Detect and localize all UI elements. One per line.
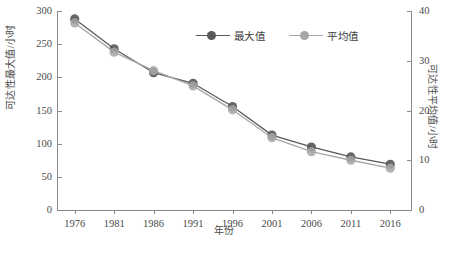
left-tick-label: 250 — [36, 39, 52, 50]
x-tick-mark — [114, 210, 115, 214]
legend-marker-icon — [196, 30, 230, 42]
x-tick-mark — [154, 210, 155, 214]
x-tick-label: 1996 — [213, 218, 253, 229]
x-tick-label: 2001 — [252, 218, 292, 229]
chart-legend: 最大值 平均值 — [196, 28, 358, 43]
x-tick-label: 1991 — [173, 218, 213, 229]
legend-marker-icon — [289, 30, 323, 42]
x-tick-label: 1986 — [134, 218, 174, 229]
right-tick-label: 30 — [419, 56, 430, 67]
x-tick-mark — [390, 210, 391, 214]
left-tick-mark — [58, 210, 62, 211]
left-tick-label: 200 — [36, 72, 52, 83]
data-point-marker — [307, 147, 316, 156]
right-tick-mark — [407, 210, 411, 211]
x-tick-label: 1976 — [55, 218, 95, 229]
x-axis-line — [57, 210, 412, 211]
right-tick-label: 20 — [419, 106, 430, 117]
x-tick-label: 2016 — [370, 218, 410, 229]
x-tick-label: 2011 — [331, 218, 371, 229]
left-tick-label: 50 — [42, 172, 53, 183]
data-point-marker — [386, 164, 395, 173]
x-tick-mark — [311, 210, 312, 214]
x-tick-mark — [272, 210, 273, 214]
x-tick-mark — [233, 210, 234, 214]
x-tick-mark — [351, 210, 352, 214]
x-tick-mark — [193, 210, 194, 214]
x-tick-label: 2006 — [291, 218, 331, 229]
left-axis-title: 可达性最大值/小时 — [2, 25, 17, 110]
data-point-marker — [346, 156, 355, 165]
legend-label-max: 最大值 — [234, 28, 265, 43]
right-tick-label: 10 — [419, 155, 430, 166]
left-tick-label: 300 — [36, 6, 52, 17]
data-point-marker — [188, 81, 197, 90]
series-line — [75, 23, 391, 168]
x-tick-mark — [75, 210, 76, 214]
data-point-marker — [228, 105, 237, 114]
chart-figure: 可达性最大值/小时 可达性平均值/小时 年份 05010015020025030… — [0, 0, 449, 257]
legend-item-avg: 平均值 — [289, 28, 358, 43]
legend-item-max: 最大值 — [196, 28, 265, 43]
right-tick-label: 40 — [419, 6, 430, 17]
right-tick-label: 0 — [419, 205, 424, 216]
left-tick-label: 100 — [36, 139, 52, 150]
data-point-marker — [149, 66, 158, 75]
data-point-marker — [267, 133, 276, 142]
x-tick-label: 1981 — [94, 218, 134, 229]
data-point-marker — [70, 18, 79, 27]
data-point-marker — [110, 48, 119, 57]
left-tick-label: 150 — [36, 106, 52, 117]
left-tick-label: 0 — [47, 205, 52, 216]
legend-label-avg: 平均值 — [327, 28, 358, 43]
